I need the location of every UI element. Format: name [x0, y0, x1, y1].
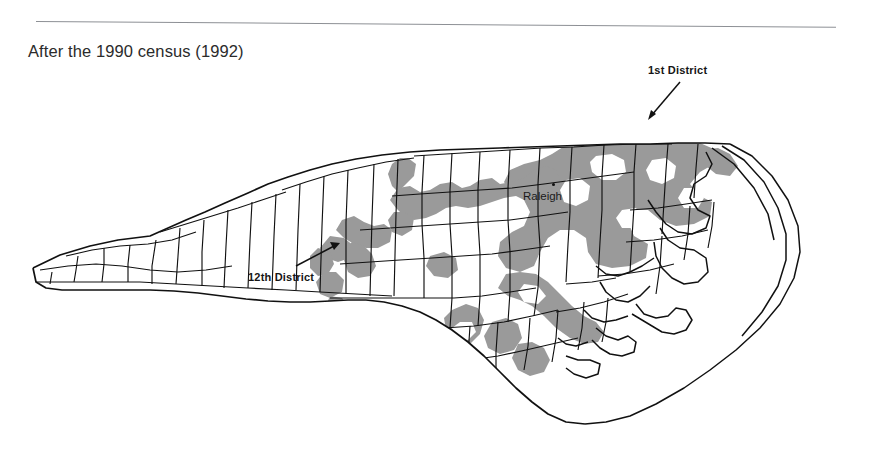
annotation-label-1st-district: 1st District — [648, 64, 707, 76]
map-canvas — [0, 60, 870, 445]
raleigh-city-label: Raleigh — [523, 190, 562, 202]
figure-container: After the 1990 census (1992) — [0, 0, 870, 449]
divider-rule — [36, 21, 836, 28]
raleigh-city-dot — [552, 183, 555, 186]
annotation-label-12th-district: 12th District — [248, 271, 314, 283]
north-carolina-map — [0, 60, 870, 445]
figure-title: After the 1990 census (1992) — [28, 42, 244, 61]
